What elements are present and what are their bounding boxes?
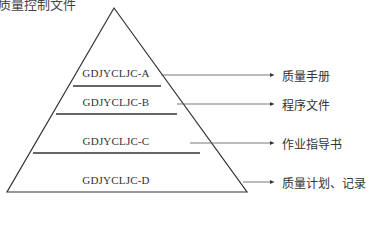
level-c-code: GDJYCLJC-C xyxy=(83,135,150,147)
level-d-document: 质量计划、记录 xyxy=(282,174,366,191)
level-c-document: 作业指导书 xyxy=(282,135,342,152)
level-b-document: 程序文件 xyxy=(282,96,330,113)
level-a-document: 质量手册 xyxy=(282,67,330,84)
level-b-code: GDJYCLJC-B xyxy=(83,96,150,108)
level-d-code: GDJYCLJC-D xyxy=(82,174,149,186)
level-a-code: GDJYCLJC-A xyxy=(82,67,149,79)
